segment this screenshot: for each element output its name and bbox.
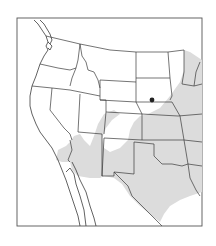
map-canvas	[0, 0, 216, 246]
locality-dot	[150, 98, 155, 103]
